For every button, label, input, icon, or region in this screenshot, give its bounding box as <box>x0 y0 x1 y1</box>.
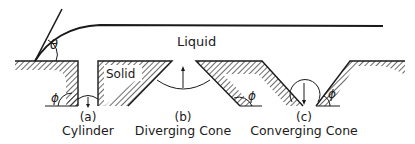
caption-name-c: Converging Cone <box>250 123 358 138</box>
phi-label-a: ϕ <box>51 91 59 105</box>
theta-label: θ <box>50 37 58 52</box>
tangent-line <box>35 9 62 61</box>
caption-tag-b: (b) <box>175 110 192 124</box>
solid-label: Solid <box>106 67 135 81</box>
arrowhead-b-icon <box>181 66 185 71</box>
caption-tag-a: (a) <box>80 110 97 124</box>
arrowhead-c-icon <box>302 100 306 105</box>
arrowhead-a-icon <box>86 104 90 108</box>
caption-name-a: Cylinder <box>62 123 115 138</box>
solid-block-left <box>15 61 78 106</box>
caption-tag-c: (c) <box>296 110 312 124</box>
caption-name-b: Diverging Cone <box>135 123 232 138</box>
phi-label-b: ϕ <box>248 89 256 103</box>
phi-label-c: ϕ <box>328 87 336 101</box>
liquid-label: Liquid <box>177 34 216 49</box>
wetting-pore-diagram: θ Liquid ϕ Solid ϕ ϕ (a) Cyli <box>0 0 415 144</box>
